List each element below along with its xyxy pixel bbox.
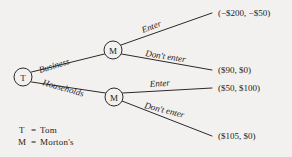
legend-equals-m: = [31,137,36,147]
edge-business-enter [121,13,212,45]
payoff-business-dont-enter: ($90, $0) [218,65,251,75]
node-label-t: T [20,73,26,83]
game-tree-svg: T M M Business Households Enter Don't en… [0,0,292,157]
legend-equals-t: = [31,125,36,135]
branch-label-enter-households: Enter [148,78,170,89]
node-label-m-business: M [109,46,117,56]
node-morton-households: M [105,88,123,106]
game-tree-figure: T M M Business Households Enter Don't en… [0,0,292,157]
legend: T = Tom M = Morton's [18,125,74,147]
branch-label-business: Business [38,56,72,75]
payoff-households-enter: ($50, $100) [218,83,260,93]
branch-label-enter-business: Enter [139,18,163,35]
node-root-tom: T [14,68,32,86]
node-morton-business: M [104,41,122,59]
legend-symbol-t: T [19,125,25,135]
edge-households-enter [123,88,213,93]
payoff-households-dont-enter: ($105, $0) [218,131,256,141]
legend-name-mortons: Morton's [40,137,74,147]
payoff-business-enter: (−$200, −$50) [218,8,270,18]
branch-label-households: Households [40,77,85,99]
legend-name-tom: Tom [40,125,57,135]
legend-symbol-m: M [18,137,26,147]
node-label-m-households: M [110,93,118,103]
